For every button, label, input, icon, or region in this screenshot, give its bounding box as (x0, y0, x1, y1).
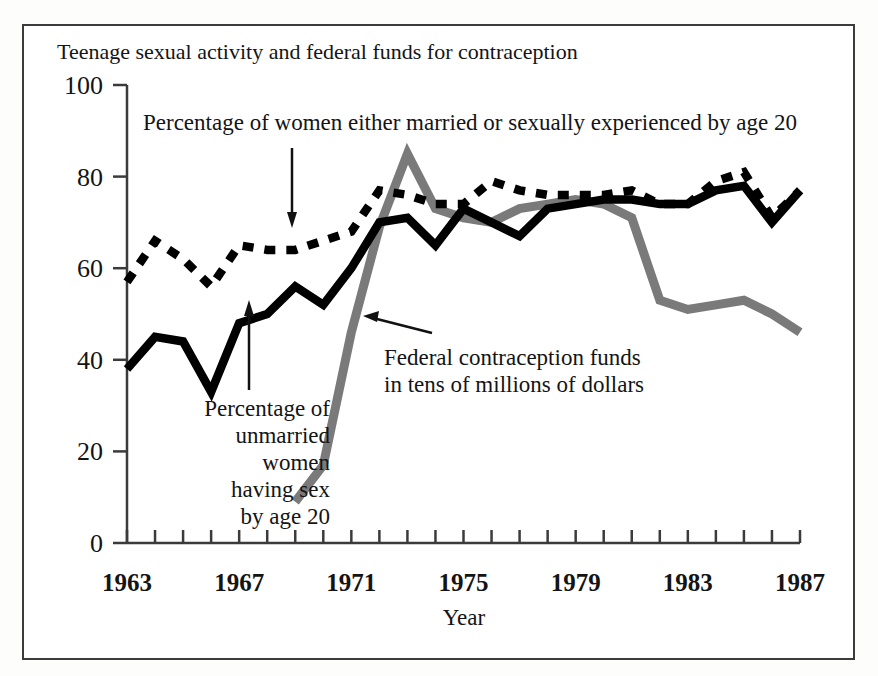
x-axis-tick-labels: 1963196719711975197919831987 (102, 569, 825, 596)
y-axis-tick-label: 0 (90, 529, 103, 558)
y-axis-tick-label: 40 (77, 346, 103, 375)
y-axis-tick-labels: 020406080100 (64, 71, 103, 558)
series-layer (127, 154, 800, 502)
annotation-married-label: Percentage of women either married or se… (143, 110, 797, 135)
series-line-married-or-experienced (127, 172, 800, 286)
x-axis-tick-label: 1983 (663, 569, 713, 596)
y-axis-tick-label: 20 (77, 437, 103, 466)
annotation-unmarried-label-line3: women (262, 450, 330, 475)
chart-canvas: Teenage sexual activity and federal fund… (0, 0, 878, 676)
annotation-funds-label-line1: Federal contraception funds (384, 345, 641, 370)
annotation-married-arrow-head (287, 212, 297, 228)
axis-group (127, 85, 800, 543)
y-axis-tick-label: 100 (64, 71, 103, 100)
x-axis-tick-label: 1971 (326, 569, 376, 596)
figure-root: Teenage sexual activity and federal fund… (0, 0, 878, 676)
x-axis-tick-label: 1963 (102, 569, 152, 596)
x-axis-tick-label: 1979 (551, 569, 601, 596)
annotation-unmarried-label-line1: Percentage of (204, 396, 330, 421)
annotation-unmarried-arrow-head (244, 300, 254, 316)
y-axis-ticks (113, 85, 127, 543)
annotation-funds-label-line2: in tens of millions of dollars (384, 372, 644, 397)
y-axis-tick-label: 60 (77, 254, 103, 283)
annotation-unmarried-label-line2: unmarried (235, 423, 330, 448)
x-axis-tick-label: 1975 (439, 569, 489, 596)
x-axis-tick-label: 1967 (214, 569, 264, 596)
annotation-unmarried-label-line4: having sex (231, 477, 331, 502)
x-axis-ticks (127, 530, 800, 543)
chart-title: Teenage sexual activity and federal fund… (57, 39, 578, 64)
annotation-unmarried-label-line5: by age 20 (241, 504, 330, 529)
annotation-funds-arrow-head (363, 311, 379, 322)
y-axis-tick-label: 80 (77, 163, 103, 192)
annotation-funds-arrow-shaft (373, 318, 432, 333)
x-axis-tick-label: 1987 (775, 569, 825, 596)
x-axis-title: Year (443, 605, 486, 630)
